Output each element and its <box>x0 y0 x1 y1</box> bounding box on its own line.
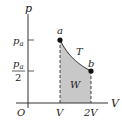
point-b <box>88 68 93 73</box>
origin-label: O <box>17 107 25 118</box>
x-axis-label: V <box>111 97 120 110</box>
point-a <box>57 37 62 42</box>
point-b-label: b <box>88 58 94 69</box>
y-tick-label-pa: pa <box>13 35 24 48</box>
pv-diagram: p V O pa pa 2 V 2V a b T W <box>0 0 122 125</box>
y-tick-label-pa-half: pa 2 <box>12 58 25 83</box>
x-tick-label-2v: 2V <box>83 107 99 118</box>
svg-text:2: 2 <box>15 72 21 83</box>
work-label: W <box>70 79 81 90</box>
point-a-label: a <box>57 25 63 36</box>
temperature-label: T <box>76 46 84 57</box>
x-tick-label-v: V <box>56 107 65 118</box>
svg-text:pa: pa <box>13 58 24 71</box>
svg-text:pa: pa <box>13 35 24 48</box>
y-axis-label: p <box>25 2 32 15</box>
